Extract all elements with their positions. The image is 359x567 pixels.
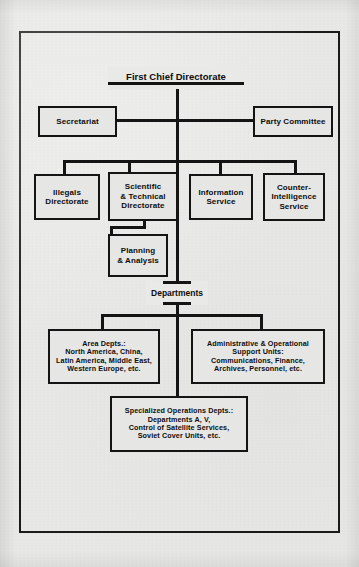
node-information-service[interactable]: Information Service — [189, 174, 253, 220]
node-label-line1: Planning — [119, 246, 158, 255]
connector-drop-illegals — [63, 160, 66, 175]
connector-drop-admin — [260, 314, 263, 330]
node-area-departments[interactable]: Area Depts.: North America, China, Latin… — [48, 329, 160, 384]
connector-scitech-to-planning-h — [110, 226, 146, 229]
node-label-line3: Service — [277, 202, 310, 211]
node-specialized-operations-departments[interactable]: Specialized Operations Depts.: Departmen… — [110, 396, 248, 452]
departments-rule-bottom — [163, 302, 191, 305]
node-label-line2: Directorate — [43, 197, 90, 206]
connector-root-to-secretariat — [116, 119, 178, 122]
node-label: First Chief Directorate — [126, 71, 226, 82]
node-illegals-directorate[interactable]: Illegals Directorate — [34, 174, 100, 220]
node-label: Secretariat — [54, 117, 100, 126]
connector-directorates-bus — [63, 160, 297, 163]
node-label-line4: Western Europe, etc. — [65, 365, 142, 373]
node-party-committee[interactable]: Party Committee — [253, 106, 333, 137]
connector-root-to-party — [176, 119, 254, 122]
connector-drop-information — [219, 160, 222, 175]
node-label-line1: Scientific — [123, 182, 164, 191]
node-label-line2: Intelligence — [269, 192, 318, 201]
node-label-line4: Archives, Personnel, etc. — [212, 365, 304, 373]
node-label-line3: Directorate — [119, 201, 166, 210]
node-planning-analysis[interactable]: Planning & Analysis — [108, 234, 168, 277]
node-label-line2: & Technical — [118, 192, 167, 201]
chart-page: First Chief Directorate Secretariat Part… — [0, 0, 359, 567]
node-scientific-technical-directorate[interactable]: Scientific & Technical Directorate — [108, 172, 178, 221]
node-administrative-operational-support-units[interactable]: Administrative & Operational Support Uni… — [191, 329, 325, 384]
node-label-line1: Counter- — [275, 183, 313, 192]
node-label: Party Committee — [258, 117, 327, 126]
node-label-line2: & Analysis — [115, 256, 161, 265]
departments-rule-top — [163, 281, 191, 284]
connector-drop-special — [176, 314, 179, 397]
node-label-line4: Soviet Cover Units, etc. — [136, 432, 223, 440]
node-label: Departments — [151, 288, 203, 298]
node-counter-intelligence-service[interactable]: Counter- Intelligence Service — [263, 173, 325, 221]
node-departments[interactable]: Departments — [146, 281, 208, 305]
node-label-line2: Service — [204, 197, 237, 206]
node-secretariat[interactable]: Secretariat — [38, 106, 117, 137]
node-label-line1: Information — [196, 188, 245, 197]
node-label-line1: Illegals — [51, 188, 83, 197]
node-first-chief-directorate[interactable]: First Chief Directorate — [108, 67, 244, 89]
connector-drop-area — [101, 314, 104, 330]
title-rule — [108, 82, 244, 85]
connector-departments-bus — [101, 314, 263, 317]
